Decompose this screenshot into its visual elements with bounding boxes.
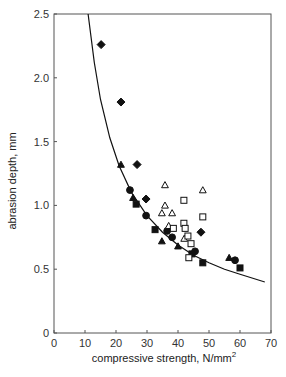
x-axis-label-text: compressive strength, N/mm (92, 352, 232, 364)
y-tick-label: 1.0 (34, 199, 49, 211)
square-marker (186, 255, 192, 261)
x-tick-label: 10 (79, 337, 91, 349)
y-tick-label: 2.5 (34, 8, 49, 20)
circle-marker (232, 257, 239, 264)
square-marker (200, 260, 206, 266)
fit-curve-line (88, 14, 265, 282)
circle-marker (127, 187, 134, 194)
x-tick-label: 60 (234, 337, 246, 349)
x-tick-label: 30 (141, 337, 153, 349)
x-tick-label: 0 (51, 337, 57, 349)
x-tick-label: 40 (172, 337, 184, 349)
x-tick-label: 50 (203, 337, 215, 349)
triangle-marker (158, 210, 165, 216)
plot-border (54, 14, 271, 333)
diamond-marker (133, 161, 141, 169)
x-axis-label-superscript: 2 (232, 350, 237, 359)
square-marker (181, 197, 187, 203)
square-marker (237, 265, 243, 271)
square-marker (188, 241, 194, 247)
plot-frame (54, 14, 271, 333)
x-axis-label: compressive strength, N/mm2 (92, 350, 237, 364)
data-points (97, 41, 243, 271)
triangle-marker (169, 210, 176, 216)
square-marker (200, 214, 206, 220)
triangle-marker (162, 202, 169, 208)
diamond-marker (117, 98, 125, 106)
circle-marker (169, 234, 176, 241)
axis-ticks: 01020304050607000.51.01.52.02.5 (34, 8, 277, 349)
scatter-chart: 01020304050607000.51.01.52.02.5 abrasion… (0, 0, 286, 377)
y-tick-label: 0.5 (34, 263, 49, 275)
square-marker (133, 201, 139, 207)
square-marker (185, 233, 191, 239)
triangle-marker (158, 238, 165, 244)
fit-curve (88, 14, 265, 282)
square-marker (152, 227, 158, 233)
y-tick-label: 1.5 (34, 136, 49, 148)
y-tick-label: 2.0 (34, 72, 49, 84)
diamond-marker (97, 41, 105, 49)
square-marker (170, 225, 176, 231)
triangle-marker (199, 187, 206, 193)
x-tick-label: 70 (265, 337, 277, 349)
y-tick-label: 0 (43, 327, 49, 339)
triangle-marker (162, 182, 169, 188)
square-marker (182, 225, 188, 231)
diamond-marker (142, 195, 150, 203)
y-axis-label: abrasion depth, mm (6, 132, 18, 229)
x-tick-label: 20 (110, 337, 122, 349)
circle-marker (143, 212, 150, 219)
diamond-marker (197, 228, 205, 236)
